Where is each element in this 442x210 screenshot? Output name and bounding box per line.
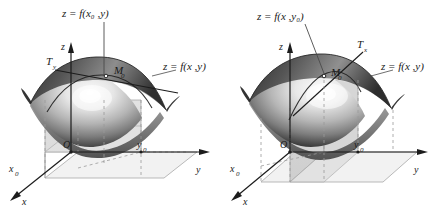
- base-plane-left: [45, 152, 197, 178]
- tick-label-y0-left: y: [136, 139, 142, 150]
- tangent-subscript-right: x: [363, 46, 368, 54]
- origin-label-right: O: [280, 139, 287, 150]
- origin-label-left: O: [63, 139, 70, 150]
- tick-subscript-x0-right: 0: [236, 170, 240, 178]
- axis-label-y-left: y: [195, 164, 201, 175]
- tick-subscript-y0-right: 0: [360, 146, 364, 154]
- tangent-label-right: T: [357, 38, 364, 50]
- tangent-label-left: T: [46, 55, 53, 67]
- tick-label-x0-left: x: [8, 163, 14, 174]
- diagram-panel-right: z = f(x ,y₀) z = f(x ,y) T x M 0 z y x O…: [221, 0, 442, 210]
- partial-derivative-figure: z = f(x₀ ,y) z = f(x ,y) T y M 0 z y x O…: [0, 0, 442, 210]
- curve-label-left: z = f(x₀ ,y): [61, 7, 109, 20]
- point-subscript-right: 0: [338, 74, 342, 82]
- axis-label-z-right: z: [278, 41, 283, 52]
- point-marker-left: [104, 74, 108, 78]
- surface-label-left: z = f(x ,y): [162, 60, 206, 73]
- axis-label-z-left: z: [60, 41, 65, 52]
- axis-label-y-right: y: [413, 164, 419, 175]
- tick-label-y0-right: y: [353, 139, 359, 150]
- tick-subscript-y0-left: 0: [143, 146, 147, 154]
- axis-label-x-right: x: [242, 196, 248, 207]
- point-subscript-left: 0: [121, 72, 125, 80]
- axis-label-x-left: x: [21, 196, 27, 207]
- tick-label-x0-right: x: [229, 163, 235, 174]
- point-marker-right: [322, 74, 326, 78]
- curve-label-right: z = f(x ,y₀): [256, 10, 304, 23]
- diagram-panel-left: z = f(x₀ ,y) z = f(x ,y) T y M 0 z y x O…: [0, 0, 221, 210]
- tick-subscript-x0-left: 0: [15, 170, 19, 178]
- surface-label-right: z = f(x ,y): [380, 60, 424, 73]
